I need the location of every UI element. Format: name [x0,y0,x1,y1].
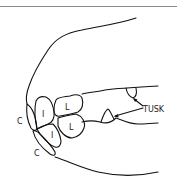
label-lower-lateral: L [69,123,74,132]
upper-gum-line [82,86,158,94]
label-lower-corner: C [34,149,40,158]
tusk-arrow-lower [115,108,143,116]
upper-lip-outline [26,18,136,104]
label-lower-incisor: I [51,131,53,140]
label-upper-lateral: L [65,103,70,112]
teeth-diagram: C I L I L C TUSK [0,0,177,186]
lower-gum-line [82,118,158,124]
lower-jaw-outline [55,157,158,175]
label-tusk: TUSK [142,105,165,114]
label-upper-incisor: I [42,110,44,119]
mouth-drawing: C I L I L C TUSK [0,0,177,186]
label-upper-corner: C [17,117,23,126]
lower-tusk [101,109,114,122]
upper-tusk [126,88,136,98]
